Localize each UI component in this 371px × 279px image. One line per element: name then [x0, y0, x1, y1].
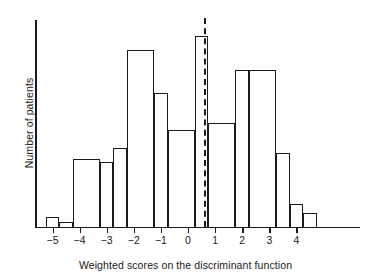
histogram-bar	[168, 130, 195, 227]
histogram-bar	[154, 93, 168, 228]
cutoff-line	[204, 18, 206, 227]
histogram-bar	[208, 123, 235, 227]
x-tick-label: 4	[281, 234, 311, 246]
x-tick-label: 1	[200, 234, 230, 246]
histogram-figure: −5−4−3−2−101234 Number of patients Weigh…	[0, 0, 371, 279]
x-tick-mark	[53, 227, 54, 233]
x-tick-label: −2	[119, 234, 149, 246]
x-tick-mark	[107, 227, 108, 233]
histogram-bar	[46, 217, 60, 228]
x-tick-mark	[242, 227, 243, 233]
x-tick-mark	[269, 227, 270, 233]
x-tick-label: −1	[146, 234, 176, 246]
x-tick-label: 3	[254, 234, 284, 246]
x-tick-mark	[215, 227, 216, 233]
x-tick-mark	[134, 227, 135, 233]
histogram-bar	[59, 222, 73, 227]
histogram-bar	[127, 50, 154, 228]
x-tick-mark	[188, 227, 189, 233]
y-axis-line	[35, 20, 37, 228]
x-tick-label: 2	[227, 234, 257, 246]
histogram-bar	[303, 213, 317, 228]
x-axis-title: Weighted scores on the discriminant func…	[0, 259, 371, 271]
histogram-bar	[113, 148, 127, 228]
histogram-bar	[100, 162, 114, 228]
histogram-bar	[276, 153, 290, 228]
x-tick-mark	[161, 227, 162, 233]
x-tick-mark	[80, 227, 81, 233]
x-tick-label: −4	[65, 234, 95, 246]
y-axis-title: Number of patients	[23, 48, 35, 198]
histogram-bar	[73, 159, 100, 228]
histogram-bar	[235, 70, 249, 227]
histogram-bar	[290, 204, 304, 228]
x-tick-mark	[296, 227, 297, 233]
histogram-bar	[195, 36, 209, 227]
histogram-bar	[249, 70, 276, 227]
plot-area: −5−4−3−2−101234	[0, 0, 371, 279]
x-tick-label: 0	[173, 234, 203, 246]
x-tick-label: −3	[92, 234, 122, 246]
x-tick-label: −5	[38, 234, 68, 246]
